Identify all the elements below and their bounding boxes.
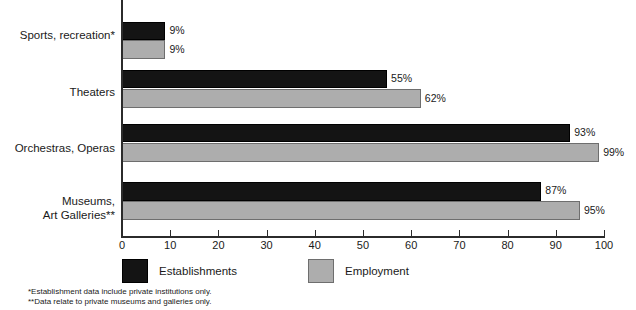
bar-employment-orchestras xyxy=(122,143,599,162)
x-axis-tick xyxy=(604,230,605,237)
x-axis-tick xyxy=(411,230,412,237)
x-axis-tick xyxy=(459,230,460,237)
legend-label-employment: Employment xyxy=(345,265,409,278)
footnote-2: **Data relate to private museums and gal… xyxy=(28,297,212,307)
bar-establishments-museums xyxy=(122,182,541,201)
horizontal-bar-chart: Sports, recreation* Theaters Orchestras,… xyxy=(0,0,636,310)
bar-value-establishments-museums: 87% xyxy=(545,184,566,196)
x-axis-tick xyxy=(363,230,364,237)
bar-employment-sports xyxy=(122,40,165,59)
x-axis-tick xyxy=(122,230,123,237)
x-axis-tick xyxy=(508,230,509,237)
legend-item-establishments: Establishments xyxy=(122,258,237,284)
x-axis-tick xyxy=(315,230,316,237)
bar-value-employment-theaters: 62% xyxy=(425,92,446,104)
bar-establishments-orchestras xyxy=(122,124,570,142)
bar-value-employment-museums: 95% xyxy=(584,204,605,216)
x-axis-tick-label: 90 xyxy=(550,239,562,252)
legend-label-establishments: Establishments xyxy=(159,265,237,278)
x-axis-tick xyxy=(267,230,268,237)
x-axis-tick-label: 30 xyxy=(260,239,272,252)
legend-swatch-establishments xyxy=(122,259,148,283)
x-axis-tick-label: 40 xyxy=(309,239,321,252)
bar-value-establishments-sports: 9% xyxy=(169,24,184,36)
legend-item-employment: Employment xyxy=(308,258,409,284)
category-label: Theaters xyxy=(2,85,115,99)
bar-value-establishments-theaters: 55% xyxy=(391,72,412,84)
x-axis-tick-label: 100 xyxy=(595,239,614,252)
bar-value-employment-orchestras: 99% xyxy=(603,146,624,158)
y-axis-line xyxy=(121,0,123,238)
bar-value-employment-sports: 9% xyxy=(169,43,184,55)
x-axis-tick-label: 50 xyxy=(357,239,369,252)
x-axis-tick-label: 70 xyxy=(453,239,465,252)
bar-establishments-sports xyxy=(122,22,165,40)
bar-value-establishments-orchestras: 93% xyxy=(574,126,595,138)
category-label: Orchestras, Operas xyxy=(2,141,115,155)
legend-swatch-employment xyxy=(308,259,334,283)
footnote-1: *Establishment data include private inst… xyxy=(28,287,212,297)
category-label: Museums, Art Galleries** xyxy=(2,194,115,222)
bar-employment-museums xyxy=(122,201,580,220)
x-axis-tick xyxy=(218,230,219,237)
x-axis-tick-label: 60 xyxy=(405,239,417,252)
x-axis-tick xyxy=(170,230,171,237)
x-axis-tick-label: 20 xyxy=(212,239,224,252)
x-axis-tick xyxy=(556,230,557,237)
category-label: Sports, recreation* xyxy=(2,28,115,42)
bar-employment-theaters xyxy=(122,89,421,108)
chart-footnotes: *Establishment data include private inst… xyxy=(28,287,212,307)
x-axis-tick-label: 0 xyxy=(119,239,125,252)
x-axis-tick-label: 10 xyxy=(164,239,176,252)
x-axis-tick-label: 80 xyxy=(501,239,513,252)
bar-establishments-theaters xyxy=(122,70,387,88)
